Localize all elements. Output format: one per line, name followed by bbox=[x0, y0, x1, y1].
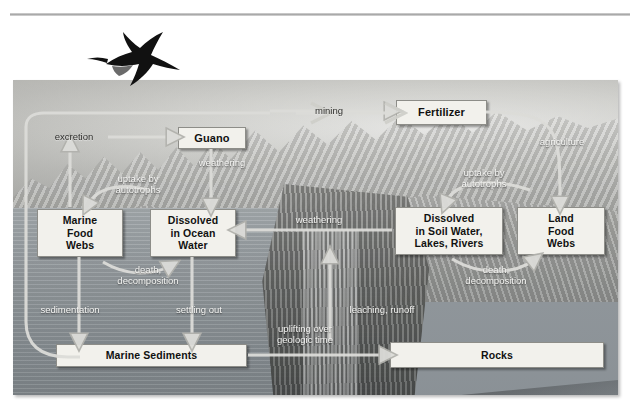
arrow-death-land bbox=[452, 259, 534, 271]
arrow-uptake-marine bbox=[88, 187, 150, 205]
arrow-death-marine bbox=[103, 262, 170, 273]
path-sediment-to-mining-loop bbox=[26, 113, 270, 357]
arrow-overlay bbox=[0, 0, 639, 409]
phosphorus-cycle-figure: Guano Fertilizer Marine Food Webs Dissol… bbox=[0, 0, 639, 409]
arrow-uptake-land bbox=[446, 183, 530, 203]
